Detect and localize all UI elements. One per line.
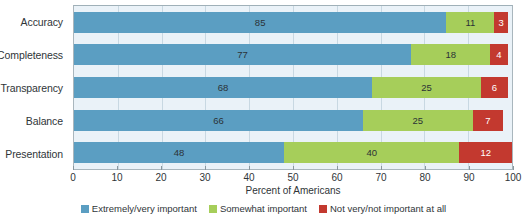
category-label-accuracy: Accuracy	[0, 5, 68, 38]
category-label-transparency: Transparency	[0, 71, 68, 104]
bar-segment: 11	[446, 12, 494, 33]
x-tick-label: 40	[243, 172, 254, 183]
x-tick-mark	[337, 166, 338, 170]
legend-swatch-icon	[81, 205, 89, 213]
bar-value-label: 12	[480, 147, 491, 158]
legend-item[interactable]: Extremely/very important	[81, 203, 197, 214]
bar-segment: 25	[363, 110, 473, 131]
bar-segment: 7	[473, 110, 504, 131]
x-tick-mark	[293, 166, 294, 170]
bar-segment: 66	[74, 110, 363, 131]
legend-swatch-icon	[319, 205, 327, 213]
bar-segment: 77	[74, 44, 411, 65]
category-axis-labels: Accuracy Completeness Transparency Balan…	[0, 5, 68, 170]
x-tick-label: 30	[199, 172, 210, 183]
legend: Extremely/very importantSomewhat importa…	[0, 203, 527, 214]
x-tick-mark	[381, 166, 382, 170]
x-tick-mark	[117, 166, 118, 170]
category-label-balance: Balance	[0, 104, 68, 137]
bar-value-label: 11	[465, 17, 475, 28]
bar-value-label: 18	[445, 49, 456, 60]
bar-track: 68256	[74, 77, 512, 98]
x-tick-label: 70	[375, 172, 386, 183]
legend-item[interactable]: Somewhat important	[209, 203, 307, 214]
legend-label: Somewhat important	[220, 203, 307, 214]
stacked-bar-chart: Accuracy Completeness Transparency Balan…	[0, 0, 527, 218]
bar-row: 484012	[74, 136, 512, 169]
bar-segment: 4	[490, 44, 508, 65]
bar-segment: 3	[494, 12, 507, 33]
bar-value-label: 68	[218, 82, 229, 93]
bar-value-label: 48	[174, 147, 185, 158]
bar-segment: 18	[411, 44, 490, 65]
bar-value-label: 4	[496, 49, 501, 60]
x-tick-mark	[161, 166, 162, 170]
x-tick-label: 10	[111, 172, 122, 183]
bar-value-label: 25	[421, 82, 432, 93]
bar-track: 77184	[74, 44, 512, 65]
legend-swatch-icon	[209, 205, 217, 213]
bar-segment: 40	[284, 142, 459, 163]
bar-value-label: 7	[485, 115, 490, 126]
x-tick-mark	[425, 166, 426, 170]
bar-segment: 48	[74, 142, 284, 163]
bar-row: 85113	[74, 6, 512, 39]
legend-label: Not very/not important at all	[330, 203, 446, 214]
x-tick-label: 100	[505, 172, 522, 183]
x-tick-mark	[469, 166, 470, 170]
bar-value-label: 25	[413, 115, 424, 126]
bar-value-label: 40	[367, 147, 378, 158]
category-label-presentation: Presentation	[0, 137, 68, 170]
legend-item[interactable]: Not very/not important at all	[319, 203, 446, 214]
bar-segment: 25	[372, 77, 482, 98]
bar-value-label: 66	[213, 115, 224, 126]
bar-row: 66257	[74, 104, 512, 137]
bar-rows: 85113771846825666257484012	[74, 6, 512, 169]
x-tick-label: 90	[463, 172, 474, 183]
x-tick-label: 50	[287, 172, 298, 183]
plot-area: 85113771846825666257484012	[73, 5, 513, 170]
bar-segment: 85	[74, 12, 446, 33]
bar-row: 68256	[74, 71, 512, 104]
bar-segment: 6	[481, 77, 507, 98]
x-tick-mark	[249, 166, 250, 170]
x-tick-label: 60	[331, 172, 342, 183]
bar-value-label: 3	[498, 17, 503, 28]
x-tick-mark	[513, 166, 514, 170]
bar-segment: 12	[459, 142, 512, 163]
bar-value-label: 85	[255, 17, 266, 28]
x-tick-mark	[205, 166, 206, 170]
bar-track: 484012	[74, 142, 512, 163]
x-tick-mark	[73, 166, 74, 170]
bar-segment: 68	[74, 77, 372, 98]
bar-row: 77184	[74, 39, 512, 72]
x-tick-label: 0	[70, 172, 76, 183]
x-axis: 0102030405060708090100	[73, 170, 513, 186]
category-label-completeness: Completeness	[0, 38, 68, 71]
x-tick-label: 80	[419, 172, 430, 183]
bar-value-label: 6	[492, 82, 497, 93]
bar-value-label: 77	[237, 49, 248, 60]
x-axis-label: Percent of Americans	[73, 185, 513, 196]
bar-track: 85113	[74, 12, 512, 33]
x-tick-label: 20	[155, 172, 166, 183]
bar-track: 66257	[74, 110, 512, 131]
legend-label: Extremely/very important	[92, 203, 197, 214]
